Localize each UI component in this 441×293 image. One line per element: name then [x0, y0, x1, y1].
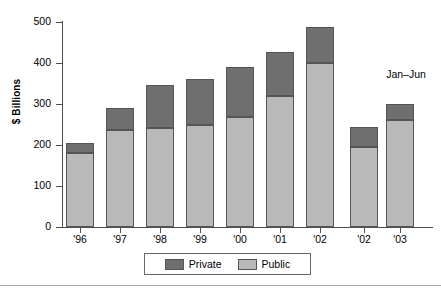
legend-label-public: Public: [262, 259, 291, 270]
bar-segment-private: [306, 27, 334, 63]
legend-swatch-private-icon: [165, 259, 184, 270]
y-axis-label: 500: [0, 16, 51, 27]
bar-full-year-00: [226, 67, 254, 227]
x-axis-label: '02: [300, 234, 340, 245]
bar-segment-private: [350, 127, 378, 147]
x-axis-label: '96: [60, 234, 100, 245]
bar-full-year-97: [106, 108, 134, 227]
legend-entry-public: Public: [238, 259, 291, 270]
bar-segment-private: [266, 52, 294, 96]
bar-segment-private: [386, 104, 414, 120]
x-axis-label: '97: [100, 234, 140, 245]
bar-segment-private: [186, 79, 214, 125]
bar-segment-public: [350, 147, 378, 227]
bar-segment-private: [226, 67, 254, 117]
bar-segment-public: [226, 117, 254, 227]
bar-segment-private: [146, 85, 174, 128]
stacked-bar-chart: $ Billions 0100200300400500 '96'97'98'99…: [0, 0, 441, 293]
x-axis-label: '02: [344, 234, 384, 245]
bar-partial-year-03: [386, 104, 414, 227]
bar-full-year-01: [266, 52, 294, 227]
bar-segment-public: [306, 63, 334, 227]
bar-partial-year-02: [350, 127, 378, 227]
bar-segment-private: [66, 143, 94, 153]
bar-segment-public: [146, 128, 174, 227]
bar-full-year-02: [306, 27, 334, 227]
bar-segment-public: [186, 125, 214, 227]
y-axis-label: 100: [0, 180, 51, 191]
jan-jun-annotation: Jan–Jun: [371, 68, 441, 80]
bottom-divider: [0, 285, 441, 286]
y-axis-label: 200: [0, 139, 51, 150]
bar-full-year-96: [66, 143, 94, 227]
legend-swatch-public-icon: [238, 259, 257, 270]
bar-segment-public: [386, 120, 414, 227]
bar-full-year-99: [186, 79, 214, 227]
x-axis-label: '98: [140, 234, 180, 245]
chart-legend: Private Public: [144, 253, 311, 275]
y-axis-label: 300: [0, 98, 51, 109]
x-axis-label: '99: [180, 234, 220, 245]
bar-segment-private: [106, 108, 134, 130]
y-axis-label: 400: [0, 57, 51, 68]
legend-label-private: Private: [189, 259, 222, 270]
x-axis-line: [62, 227, 433, 228]
bar-segment-public: [66, 153, 94, 227]
x-axis-label: '03: [380, 234, 420, 245]
bar-segment-public: [266, 96, 294, 227]
bar-segment-public: [106, 130, 134, 227]
bar-full-year-98: [146, 85, 174, 227]
legend-entry-private: Private: [165, 259, 222, 270]
y-axis-label: 0: [0, 221, 51, 232]
x-axis-label: '00: [220, 234, 260, 245]
plot-area: [62, 22, 432, 227]
x-axis-label: '01: [260, 234, 300, 245]
